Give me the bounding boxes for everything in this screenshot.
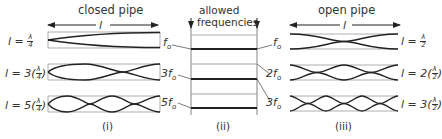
allowed-title-line1: allowed: [199, 5, 239, 16]
closed-pipe-mode-1: [48, 32, 160, 48]
closed-pipe-mode-2: [48, 64, 160, 80]
frequency-ladder: [191, 18, 257, 115]
open-pipe-length-symbol: l: [343, 20, 346, 31]
closed-pipe-length-symbol: l: [99, 20, 102, 31]
open-freq-3f0: 3fo: [266, 97, 281, 111]
open-pipe-mode-2: [290, 65, 398, 80]
allowed-title-line2: frequencies: [197, 17, 258, 28]
caption-ii: (ii): [216, 121, 230, 132]
open-pipe-title: open pipe: [318, 5, 375, 17]
closed-freq-3f0: 3fo: [161, 68, 176, 82]
open-mode-2-label: l = 2(λ2): [401, 66, 442, 81]
closed-pipe-mode-3: [48, 96, 160, 112]
closed-freq-f0: fo: [163, 37, 171, 51]
open-freq-2f0: 2fo: [266, 68, 281, 82]
closed-mode-3-label: l = 5(λ4): [5, 98, 46, 113]
open-mode-1-label: l = λ2: [401, 34, 426, 49]
open-freq-f0: fo: [273, 37, 281, 51]
closed-pipe-title: closed pipe: [78, 5, 143, 17]
caption-i: (i): [102, 121, 113, 132]
closed-mode-2-label: l = 3(λ4): [5, 66, 46, 81]
closed-freq-5f0: 5fo: [161, 97, 176, 111]
open-mode-3-label: l = 3(λ2): [401, 97, 442, 112]
open-pipe-mode-1: [290, 34, 398, 49]
open-pipe-mode-3: [290, 96, 398, 111]
caption-iii: (iii): [335, 121, 352, 132]
closed-mode-1-label: l = λ4: [8, 34, 33, 49]
